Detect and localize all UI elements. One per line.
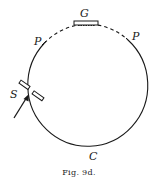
grating-plate	[74, 21, 98, 25]
figure-diagram: G P P S C Fig. 9d.	[0, 0, 158, 182]
figure-caption: Fig. 9d.	[62, 168, 95, 177]
slit-jaw-lower	[32, 91, 44, 101]
circle-solid-arc	[28, 40, 148, 146]
label-pole-left: P	[33, 35, 42, 48]
circle-dashed-arc	[45, 24, 129, 43]
pole-left-tick	[42, 41, 46, 45]
label-grating: G	[80, 7, 89, 20]
label-circle: C	[89, 150, 98, 163]
label-pole-right: P	[131, 30, 140, 43]
label-slit: S	[10, 88, 18, 101]
pole-right-tick	[126, 38, 130, 42]
